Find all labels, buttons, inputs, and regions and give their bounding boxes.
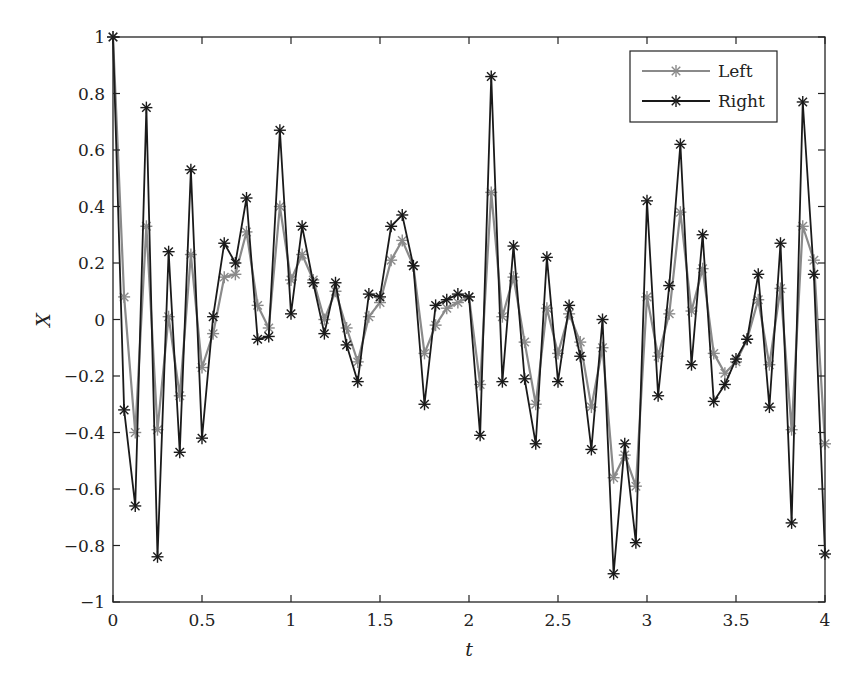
y-axis-label: X (32, 312, 54, 329)
x-tick-label: 2.5 (544, 610, 571, 630)
y-tick-label: −1 (80, 592, 105, 612)
legend-left-label: Left (718, 61, 753, 81)
x-tick-label: 1 (286, 610, 297, 630)
x-tick-label: 2 (464, 610, 475, 630)
y-tick-label: 0.2 (78, 253, 105, 273)
y-tick-label: 0.8 (78, 84, 105, 104)
legend-left-marker-icon (670, 65, 682, 77)
x-tick-label: 1.5 (366, 610, 393, 630)
legend-box (630, 51, 777, 122)
x-tick-label: 0.5 (188, 610, 215, 630)
line-chart: 00.511.522.533.54 −1−0.8−0.6−0.4−0.200.2… (0, 0, 867, 690)
y-tick-label: −0.6 (64, 479, 105, 499)
x-tick-label: 3 (642, 610, 653, 630)
y-tick-label: 0.6 (78, 140, 105, 160)
legend-right-marker-icon (670, 95, 682, 107)
x-tick-label: 0 (108, 610, 119, 630)
y-tick-label: −0.2 (64, 366, 105, 386)
x-tick-label: 4 (820, 610, 831, 630)
x-axis-label: t (465, 638, 473, 660)
legend-right-label: Right (718, 91, 765, 111)
y-tick-label: −0.8 (64, 536, 105, 556)
y-tick-label: 0.4 (78, 197, 105, 217)
legend: Left Right (630, 51, 777, 122)
x-tick-label: 3.5 (722, 610, 749, 630)
y-tick-label: −0.4 (64, 423, 105, 443)
y-tick-label: 1 (94, 27, 105, 47)
y-tick-label: 0 (94, 310, 105, 330)
